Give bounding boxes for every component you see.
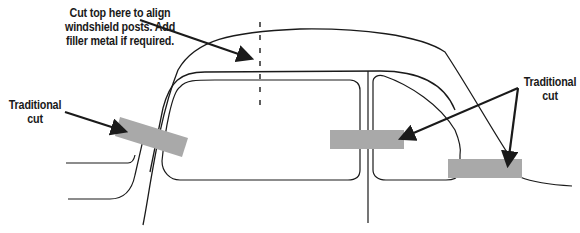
a-pillar-cut-band bbox=[115, 117, 188, 157]
rear-window-frame bbox=[373, 75, 460, 180]
roof-rail-outer bbox=[150, 71, 455, 172]
arrow-right-cut-b-pillar bbox=[402, 88, 518, 138]
left-label-line-1: Traditional bbox=[5, 98, 65, 112]
rear-body-line bbox=[520, 177, 572, 186]
c-pillar-cut-band bbox=[448, 159, 522, 178]
note-line-3: filler metal if required. bbox=[43, 34, 198, 48]
note-line-2: windshield posts. Add bbox=[43, 20, 198, 34]
right-label-line-1: Traditional bbox=[520, 75, 580, 89]
note-line-1: Cut top here to align bbox=[43, 6, 198, 20]
right-label-line-2: cut bbox=[520, 89, 580, 103]
arrow-right-cut-c-pillar bbox=[508, 88, 518, 164]
left-label-line-2: cut bbox=[5, 112, 65, 126]
outer-roof-line bbox=[143, 29, 512, 225]
windshield-cut-note: Cut top here to align windshield posts. … bbox=[43, 6, 198, 48]
body-line-upper-left bbox=[66, 155, 135, 163]
left-traditional-cut-label: Traditional cut bbox=[5, 98, 65, 126]
arrow-left-traditional-cut bbox=[65, 112, 124, 131]
right-traditional-cut-label: Traditional cut bbox=[520, 75, 580, 103]
body-line-lower-left bbox=[68, 140, 143, 199]
b-pillar-cut-band bbox=[330, 130, 404, 149]
